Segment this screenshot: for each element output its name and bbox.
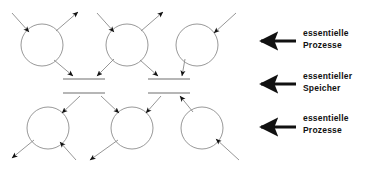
annotation-label-processes-top: essentielle Prozesse <box>303 28 349 51</box>
flow-top2-to-store1 <box>97 59 114 76</box>
diagram-canvas: essentielle Prozesse essentieller Speich… <box>0 0 369 170</box>
flow-top2-to-store2 <box>140 60 158 76</box>
flow-out-top-2 <box>141 12 163 31</box>
flow-store1-to-bottom2 <box>101 96 119 113</box>
process-circle-bottom-3 <box>181 107 223 149</box>
annotation-label-processes-bottom: essentielle Prozesse <box>303 113 349 136</box>
flow-out-bottom-1 <box>12 140 34 158</box>
annotation-line-1: essentielle <box>303 28 349 40</box>
flow-out-bottom-2 <box>90 140 118 160</box>
annotation-line-2: Prozesse <box>303 125 349 137</box>
annotation-line-2: Prozesse <box>303 40 349 52</box>
data-store-1 <box>63 79 105 93</box>
flow-out-top-1 <box>56 12 78 31</box>
process-circle-top-3 <box>176 24 218 66</box>
annotation-line-1: essentielle <box>303 113 349 125</box>
annotation-line-2: Speicher <box>303 83 352 95</box>
process-circle-bottom-1 <box>27 107 69 149</box>
flow-bottom3-to-store2 <box>180 96 193 112</box>
flow-in-top-2 <box>97 13 114 32</box>
flow-in-bottom-1 <box>60 142 76 160</box>
annotation-line-1: essentieller <box>303 71 352 83</box>
flow-store2-to-bottom2 <box>146 96 161 113</box>
flow-in-bottom-3 <box>216 139 239 160</box>
flow-store1-to-bottom1 <box>62 96 80 113</box>
data-store-2 <box>148 79 190 93</box>
flow-in-top-3 <box>214 13 236 33</box>
annotation-label-store-middle: essentieller Speicher <box>303 71 352 94</box>
process-circle-bottom-2 <box>111 107 153 149</box>
flow-top1-to-store1 <box>54 60 73 76</box>
flow-in-top-1 <box>12 13 29 32</box>
